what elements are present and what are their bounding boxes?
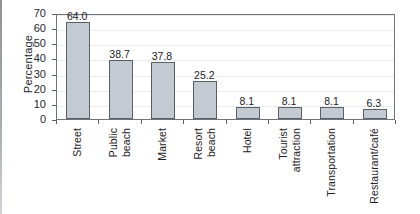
x-tick-mark xyxy=(268,120,269,124)
gridline xyxy=(57,76,394,77)
bar-value-label: 37.8 xyxy=(152,50,172,62)
x-category-label-line: Resort xyxy=(192,128,204,160)
x-category-label: Touristattraction xyxy=(269,128,309,212)
gridline xyxy=(57,30,394,31)
x-category-label: Hotel xyxy=(227,128,267,212)
x-tick-mark xyxy=(353,120,354,124)
x-tick-mark xyxy=(310,120,311,124)
x-category-label: Street xyxy=(57,128,97,212)
y-tick-label: 0 xyxy=(20,113,46,125)
x-category-label-line: Restaurant/café xyxy=(368,128,380,204)
y-tick-label: 50 xyxy=(20,37,46,49)
y-tick-label: 30 xyxy=(20,68,46,80)
plot-area xyxy=(56,14,395,120)
x-tick-mark xyxy=(395,120,396,124)
y-tick-label: 10 xyxy=(20,98,46,110)
x-category-label: Market xyxy=(142,128,182,212)
bar-value-label: 8.1 xyxy=(324,95,339,107)
bar-chart: Percentage 010203040506070 64.038.737.82… xyxy=(0,0,420,214)
x-category-label: Restaurant/café xyxy=(354,128,394,212)
bar-value-label: 6.3 xyxy=(367,97,382,109)
y-tick-label: 70 xyxy=(20,7,46,19)
x-category-label: Publicbeach xyxy=(100,128,140,212)
x-category-label-line: Hotel xyxy=(241,128,253,153)
x-category-label-line: Market xyxy=(156,128,168,161)
x-category-label: Transportation xyxy=(311,128,351,212)
bar-value-label: 8.1 xyxy=(239,95,254,107)
gridline xyxy=(57,15,394,16)
x-tick-mark xyxy=(141,120,142,124)
x-category-label-line: beach xyxy=(120,128,132,157)
x-category-label-line: Public xyxy=(107,128,119,157)
y-tick-label: 20 xyxy=(20,83,46,95)
x-tick-mark xyxy=(98,120,99,124)
x-category-label: Resortbeach xyxy=(184,128,224,212)
bar-value-label: 38.7 xyxy=(109,48,129,60)
x-tick-mark xyxy=(56,120,57,124)
bar xyxy=(320,107,344,119)
x-category-label-line: attraction xyxy=(290,128,302,172)
bar xyxy=(109,60,133,119)
y-tick-label: 40 xyxy=(20,52,46,64)
x-category-label-line: Tourist xyxy=(277,128,289,160)
bar-value-label: 64.0 xyxy=(67,10,87,22)
gridline xyxy=(57,60,394,61)
x-category-label-line: beach xyxy=(205,128,217,157)
bar xyxy=(151,62,175,119)
bar xyxy=(236,107,260,119)
gridline xyxy=(57,45,394,46)
x-category-label-line: Street xyxy=(71,128,83,157)
x-tick-mark xyxy=(183,120,184,124)
bar-value-label: 25.2 xyxy=(194,69,214,81)
bar-value-label: 8.1 xyxy=(282,95,297,107)
x-tick-mark xyxy=(226,120,227,124)
bar xyxy=(278,107,302,119)
bar xyxy=(363,109,387,119)
y-tick-label: 60 xyxy=(20,22,46,34)
gridline xyxy=(57,91,394,92)
bar xyxy=(193,81,217,119)
bar xyxy=(66,22,90,119)
x-category-label-line: Transportation xyxy=(325,128,337,197)
